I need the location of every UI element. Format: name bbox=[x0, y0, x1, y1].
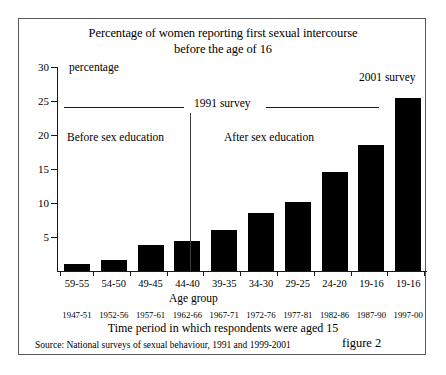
survey-1991-label: 1991 survey bbox=[194, 97, 251, 109]
y-axis-tick bbox=[51, 237, 58, 238]
x-axis-tick bbox=[93, 271, 94, 276]
bar bbox=[358, 145, 384, 271]
y-axis-tick-label: 30 bbox=[25, 62, 49, 73]
x-axis-tick bbox=[130, 271, 131, 276]
y-axis-tick bbox=[51, 169, 58, 170]
source-note: Source: National surveys of sexual behav… bbox=[35, 340, 291, 351]
y-axis-caption: percentage bbox=[69, 61, 119, 73]
x-axis-tick bbox=[351, 271, 352, 276]
bar bbox=[211, 230, 237, 271]
x-axis-tick bbox=[424, 271, 425, 276]
x-axis-tick bbox=[167, 271, 168, 276]
bar bbox=[395, 98, 421, 271]
figure-frame: Percentage of women reporting first sexu… bbox=[18, 18, 426, 355]
plot-area: percentage 51015202530 59-5554-5049-4544… bbox=[19, 19, 427, 356]
y-axis-tick bbox=[51, 203, 58, 204]
y-axis-tick-label: 25 bbox=[25, 96, 49, 107]
x-axis-tick bbox=[387, 271, 388, 276]
x-axis-tick bbox=[203, 271, 204, 276]
bar bbox=[322, 172, 348, 271]
bar bbox=[64, 264, 90, 271]
bar bbox=[248, 213, 274, 271]
bar bbox=[138, 245, 164, 271]
x-axis-caption: Time period in which respondents were ag… bbox=[19, 322, 427, 335]
bar bbox=[101, 260, 127, 271]
y-axis-tick bbox=[51, 101, 58, 102]
x-axis-tick bbox=[277, 271, 278, 276]
x-axis-tick bbox=[60, 271, 61, 276]
sex-education-divider bbox=[190, 113, 191, 271]
period-label: 1997-00 bbox=[384, 310, 432, 320]
survey-1991-rule-right bbox=[266, 107, 379, 108]
bar bbox=[285, 202, 311, 271]
age-group-caption: Age group bbox=[169, 292, 218, 304]
x-axis-tick bbox=[240, 271, 241, 276]
y-axis-tick bbox=[51, 67, 58, 68]
survey-2001-label: 2001 survey bbox=[359, 71, 416, 83]
bar bbox=[174, 241, 200, 271]
after-sex-education-label: After sex education bbox=[224, 131, 314, 143]
y-axis-tick bbox=[51, 135, 58, 136]
y-axis-tick-label: 10 bbox=[25, 198, 49, 209]
x-axis-tick bbox=[314, 271, 315, 276]
y-axis-tick-label: 5 bbox=[25, 232, 49, 243]
survey-1991-rule-left bbox=[64, 107, 184, 108]
x-axis-line bbox=[57, 271, 427, 272]
figure-number: figure 2 bbox=[342, 337, 381, 350]
category-label: 19-16 bbox=[384, 278, 432, 290]
before-sex-education-label: Before sex education bbox=[67, 131, 164, 143]
y-axis-tick-label: 20 bbox=[25, 130, 49, 141]
y-axis-tick-label: 15 bbox=[25, 164, 49, 175]
